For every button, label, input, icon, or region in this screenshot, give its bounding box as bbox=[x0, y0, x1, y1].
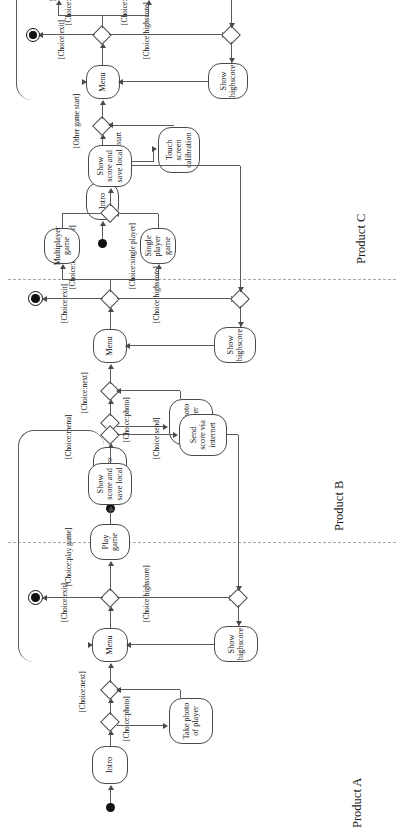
node-send-score-a: Send score via internet bbox=[179, 414, 227, 456]
decision-photo-a bbox=[100, 712, 120, 732]
product-a-title: Product A bbox=[350, 778, 365, 828]
product-b-title: Product B bbox=[332, 481, 347, 531]
node-highscore-c: Show highscore bbox=[208, 63, 248, 99]
guard-photo-a: [Choice:photo] bbox=[122, 696, 131, 741]
return-path-menu-a bbox=[18, 430, 104, 662]
final-node-b bbox=[28, 291, 43, 306]
guard-photo-b: [Choice:photo] bbox=[122, 397, 131, 442]
guard-send-a: [Choice:send] bbox=[152, 418, 161, 459]
guard-next-b: [Choice:next] bbox=[80, 372, 89, 413]
node-menu-b: Menu bbox=[93, 329, 127, 363]
initial-node-a bbox=[106, 803, 115, 812]
decision-menu-b bbox=[100, 289, 120, 309]
node-singleplayer-b: Single player game bbox=[140, 228, 176, 264]
guard-exit-b: [Choice:exit] bbox=[60, 284, 69, 323]
node-show-score-b: Show score and save local bbox=[88, 145, 132, 187]
node-highscore-b: Show highscore bbox=[214, 327, 256, 363]
guard-highscore-a: [Choice:highscore] bbox=[142, 565, 151, 622]
node-highscore-a: Show highscore bbox=[214, 626, 258, 662]
return-path-menu-c bbox=[16, 0, 96, 100]
guard-highscore-b: [Choice:highscore] bbox=[152, 266, 161, 323]
diagram-page: Product C Intro First game start [Other … bbox=[0, 0, 404, 838]
node-photo-a: Take photo of player bbox=[169, 698, 213, 744]
node-intro-a: Intro bbox=[92, 746, 128, 784]
panel-product-a: Product A Intro [Choice:photo] [Choice:n… bbox=[0, 544, 404, 838]
node-multiplayer-b: Multiplayer game bbox=[44, 228, 80, 264]
guard-next-a: [Choice:next] bbox=[78, 671, 87, 712]
canvas-product-a: Product A Intro [Choice:photo] [Choice:n… bbox=[2, 548, 394, 834]
